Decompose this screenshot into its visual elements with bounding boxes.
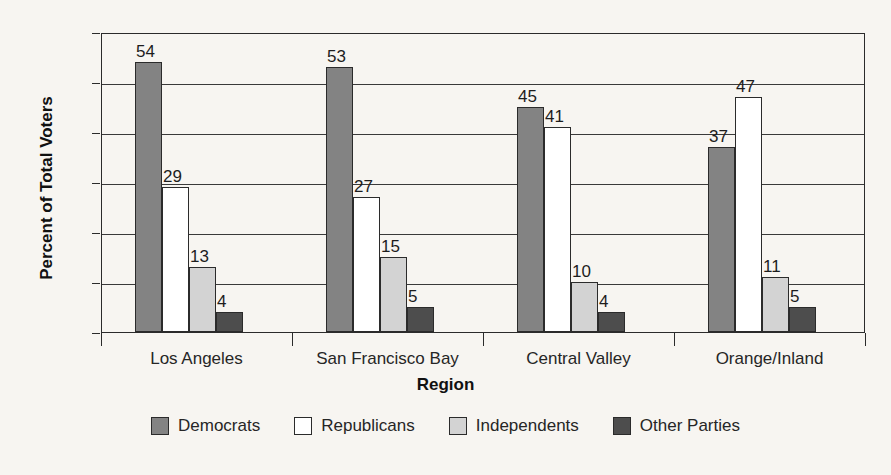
bar-value-label: 5 <box>408 288 417 305</box>
bar <box>544 127 571 332</box>
bar-value-label: 5 <box>790 288 799 305</box>
y-tick-mark <box>92 183 100 184</box>
legend-label: Republicans <box>321 416 415 436</box>
bar <box>216 312 243 332</box>
bar-value-label: 53 <box>327 48 346 65</box>
legend-swatch-icon <box>294 417 312 435</box>
bar <box>407 307 434 332</box>
bar <box>189 267 216 332</box>
bar <box>517 107 544 332</box>
bar-value-label: 29 <box>163 168 182 185</box>
chart-legend: DemocratsRepublicansIndependentsOther Pa… <box>0 416 891 436</box>
bar-value-label: 27 <box>354 178 373 195</box>
bar-value-label: 45 <box>518 88 537 105</box>
y-tick-mark <box>92 33 100 34</box>
y-tick-mark <box>92 133 100 134</box>
x-tick-mark <box>483 333 484 346</box>
legend-swatch-icon <box>449 417 467 435</box>
legend-label: Other Parties <box>640 416 740 436</box>
legend-swatch-icon <box>613 417 631 435</box>
x-tick-label: Los Angeles <box>101 349 292 369</box>
bar <box>326 67 353 332</box>
bar-chart: Percent of Total Voters 0102030405060 54… <box>0 0 891 475</box>
bar-value-label: 37 <box>709 128 728 145</box>
bar-value-label: 11 <box>763 258 781 275</box>
bar-value-label: 15 <box>381 238 400 255</box>
bar-value-label: 10 <box>572 263 591 280</box>
legend-item: Other Parties <box>613 416 740 436</box>
bar-value-label: 47 <box>736 78 755 95</box>
y-tick-mark <box>92 283 100 284</box>
bar-value-label: 4 <box>217 293 226 310</box>
bar <box>708 147 735 332</box>
x-tick-label: Central Valley <box>483 349 674 369</box>
bar-value-label: 13 <box>190 248 209 265</box>
x-tick-label: San Francisco Bay <box>292 349 483 369</box>
legend-item: Republicans <box>294 416 415 436</box>
x-tick-mark <box>292 333 293 346</box>
bar-value-label: 41 <box>545 108 564 125</box>
legend-label: Democrats <box>178 416 260 436</box>
legend-label: Independents <box>476 416 579 436</box>
bar <box>762 277 789 332</box>
y-tick-mark <box>92 83 100 84</box>
legend-item: Democrats <box>151 416 260 436</box>
y-tick-mark <box>92 333 100 334</box>
x-axis-title: Region <box>0 375 891 395</box>
legend-item: Independents <box>449 416 579 436</box>
bar-value-label: 4 <box>599 293 608 310</box>
bar <box>735 97 762 332</box>
x-tick-mark <box>865 333 866 346</box>
bar <box>135 62 162 332</box>
x-tick-mark <box>674 333 675 346</box>
x-tick-mark <box>101 333 102 346</box>
bar <box>380 257 407 332</box>
legend-swatch-icon <box>151 417 169 435</box>
bar-value-label: 54 <box>136 43 155 60</box>
y-tick-mark <box>92 233 100 234</box>
bar <box>598 312 625 332</box>
bar <box>571 282 598 332</box>
bar <box>353 197 380 332</box>
x-tick-label: Orange/Inland <box>674 349 865 369</box>
bar <box>162 187 189 332</box>
bar <box>789 307 816 332</box>
y-axis-title: Percent of Total Voters <box>37 53 57 323</box>
